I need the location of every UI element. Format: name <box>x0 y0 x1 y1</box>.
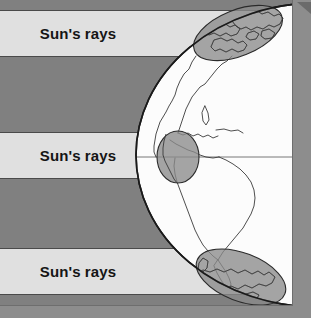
frame-bottom-margin <box>0 305 311 318</box>
suns-rays-diagram: Sun's rays Sun's rays Sun's rays <box>0 0 311 318</box>
frame-right-margin <box>293 0 311 318</box>
ray-band-equator-label: Sun's rays <box>40 147 116 164</box>
ray-band-south-label: Sun's rays <box>40 263 116 280</box>
ray-band-north-label: Sun's rays <box>40 25 116 42</box>
diagram-canvas: Sun's rays Sun's rays Sun's rays <box>0 0 311 318</box>
equatorial-footprint <box>157 131 199 183</box>
